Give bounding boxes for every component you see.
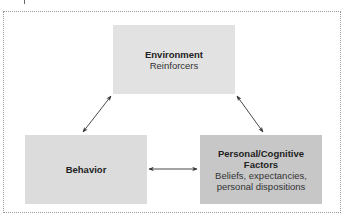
personal-subtitle-line2: personal dispositions xyxy=(217,181,306,192)
behavior-node: Behavior xyxy=(25,135,147,204)
personal-cognitive-node: Personal/Cognitive Factors Beliefs, expe… xyxy=(200,135,322,204)
personal-subtitle-line1: Beliefs, expectancies, xyxy=(215,170,307,181)
environment-subtitle: Reinforcers xyxy=(150,60,199,71)
personal-title-line2: Factors xyxy=(244,159,278,170)
environment-node: Environment Reinforcers xyxy=(113,25,235,94)
behavior-title: Behavior xyxy=(66,164,107,175)
corner-mark xyxy=(24,0,25,4)
personal-title-line1: Personal/Cognitive xyxy=(218,148,304,159)
environment-title: Environment xyxy=(145,49,203,60)
